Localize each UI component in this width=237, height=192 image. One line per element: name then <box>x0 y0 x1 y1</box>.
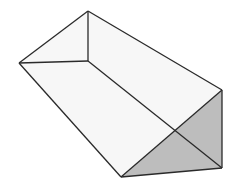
prism-diagram <box>0 0 237 192</box>
